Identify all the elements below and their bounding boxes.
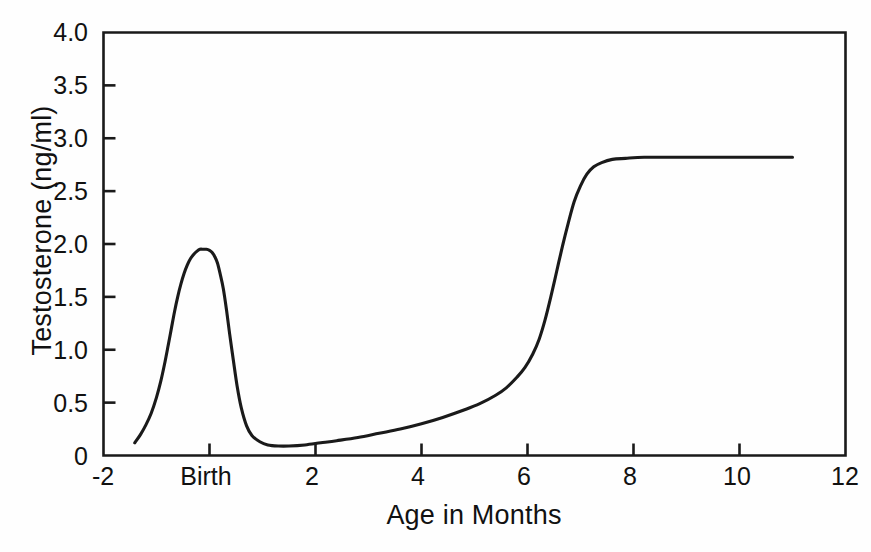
plot-area [0, 0, 871, 552]
testosterone-age-chart: Testosterone (ng/ml) 4.0 3.5 3.0 2.5 2.0… [0, 0, 871, 552]
tick-marks [104, 85, 740, 455]
axes-frame [104, 33, 846, 456]
testosterone-curve [135, 157, 793, 446]
